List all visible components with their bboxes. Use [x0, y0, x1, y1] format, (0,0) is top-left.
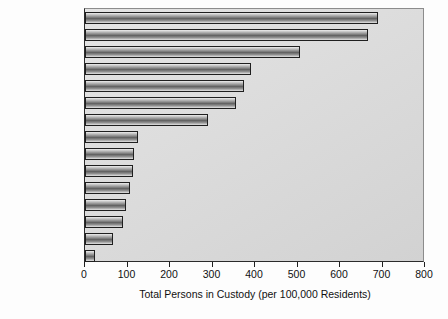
category-axis-labels: [0, 8, 78, 263]
x-tick: [424, 262, 425, 267]
bar-row: [85, 145, 423, 162]
category-label: [0, 212, 78, 229]
bar-row: [85, 77, 423, 94]
bar: [85, 216, 123, 228]
x-tick-label: 500: [288, 268, 306, 280]
x-tick-label: 0: [81, 268, 87, 280]
x-tick-label: 400: [245, 268, 263, 280]
x-tick: [339, 262, 340, 267]
category-label: [0, 229, 78, 246]
category-label: [0, 161, 78, 178]
category-label: [0, 246, 78, 263]
category-label: [0, 178, 78, 195]
bar: [85, 114, 208, 126]
category-label: [0, 25, 78, 42]
bar-row: [85, 94, 423, 111]
bar: [85, 148, 134, 160]
x-tick: [84, 262, 85, 267]
x-tick: [382, 262, 383, 267]
bar-row: [85, 111, 423, 128]
x-tick-label: 800: [415, 268, 433, 280]
bar: [85, 165, 133, 177]
bar-row: [85, 9, 423, 26]
bar-row: [85, 43, 423, 60]
bar: [85, 97, 236, 109]
bar-row: [85, 196, 423, 213]
x-tick: [297, 262, 298, 267]
bar-row: [85, 179, 423, 196]
bar-series: [85, 9, 423, 261]
bar-row: [85, 230, 423, 247]
category-label: [0, 195, 78, 212]
bar: [85, 80, 244, 92]
bar-row: [85, 26, 423, 43]
x-tick-label: 600: [330, 268, 348, 280]
x-tick-label: 300: [203, 268, 221, 280]
x-axis-title: Total Persons in Custody (per 100,000 Re…: [84, 288, 426, 300]
bar-row: [85, 213, 423, 230]
bar-row: [85, 162, 423, 179]
bar: [85, 131, 138, 143]
bar-row: [85, 128, 423, 145]
bar: [85, 199, 126, 211]
bar: [85, 63, 251, 75]
x-tick-label: 100: [118, 268, 136, 280]
bar: [85, 233, 113, 245]
category-label: [0, 42, 78, 59]
category-label: [0, 144, 78, 161]
bar-row: [85, 60, 423, 77]
category-label: [0, 110, 78, 127]
x-tick-label: 200: [160, 268, 178, 280]
bar: [85, 250, 95, 262]
category-label: [0, 76, 78, 93]
bar-chart: 0100200300400500600700800 Total Persons …: [0, 0, 448, 319]
plot-area: [84, 8, 424, 262]
x-tick: [212, 262, 213, 267]
bar: [85, 46, 300, 58]
x-tick: [254, 262, 255, 267]
category-label: [0, 93, 78, 110]
bar: [85, 12, 378, 24]
x-tick-label: 700: [373, 268, 391, 280]
category-label: [0, 8, 78, 25]
category-label: [0, 59, 78, 76]
category-label: [0, 127, 78, 144]
x-tick: [169, 262, 170, 267]
x-tick: [127, 262, 128, 267]
bar: [85, 182, 130, 194]
bar: [85, 29, 368, 41]
